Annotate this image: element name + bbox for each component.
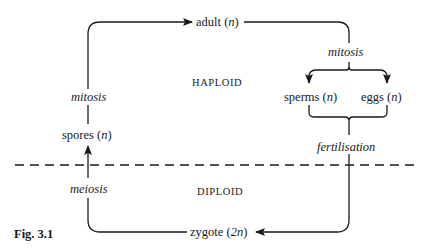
brace-split-to-gametes: [309, 62, 387, 83]
region-haploid-label: HAPLOID: [192, 76, 242, 90]
label-fertilisation: fertilisation: [317, 140, 375, 154]
node-spores-name: spores: [62, 128, 94, 142]
node-eggs: eggs (n): [361, 90, 402, 104]
node-zygote: zygote (2n): [190, 225, 247, 239]
node-adult-ploidy: n: [228, 15, 234, 29]
arrow-fertilisation-to-zygote: [256, 154, 349, 232]
label-mitosis-left: mitosis: [71, 90, 106, 104]
node-adult: adult (n): [196, 15, 239, 29]
node-zygote-ploidy: 2n: [231, 225, 244, 239]
node-zygote-name: zygote: [190, 225, 223, 239]
node-sperms: sperms (n): [284, 90, 337, 104]
arrow-spores-to-adult: [88, 22, 192, 124]
node-spores: spores (n): [62, 128, 112, 142]
figure-caption: Fig. 3.1: [14, 227, 53, 241]
brace-merge-gametes: [309, 105, 387, 135]
region-diploid-label: DIPLOID: [197, 185, 243, 199]
life-cycle-diagram: [0, 0, 429, 252]
label-mitosis-right: mitosis: [328, 45, 363, 59]
label-meiosis: meiosis: [70, 182, 108, 196]
node-eggs-ploidy: n: [391, 90, 397, 104]
node-eggs-name: eggs: [361, 90, 384, 104]
node-sperms-ploidy: n: [327, 90, 333, 104]
node-spores-ploidy: n: [101, 128, 107, 142]
line-adult-to-mitosis: [244, 22, 349, 43]
node-adult-name: adult: [196, 15, 221, 29]
node-sperms-name: sperms: [284, 90, 319, 104]
